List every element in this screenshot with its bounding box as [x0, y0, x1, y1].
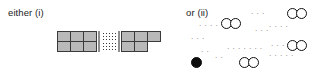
- grid-cell: [147, 31, 161, 42]
- ellipsis-dots: · · · · · · ·: [227, 45, 263, 52]
- open-circle: [296, 40, 307, 51]
- ellipsis-dots: · · · ·: [269, 23, 288, 30]
- figure-root: either (i): [0, 0, 326, 77]
- open-circle: [230, 18, 241, 29]
- ellipsis-dots: · · ·: [255, 27, 269, 34]
- ellipsis-dots: · · · · ·: [269, 52, 294, 59]
- option-i-caption: either (i): [8, 7, 44, 18]
- ellipsis-dots: · · · ·: [199, 22, 218, 29]
- grid-cell: [121, 41, 135, 52]
- band-edge-right: [118, 31, 120, 52]
- filled-circle: [191, 57, 202, 68]
- ellipsis-dots: · ·: [215, 54, 223, 61]
- ellipsis-dots: · · ·: [271, 42, 285, 49]
- continuation-dots: [98, 31, 120, 52]
- grid-cell: [57, 41, 71, 52]
- option-i-panel: either (i): [0, 0, 182, 77]
- grid-cell: [70, 41, 84, 52]
- ellipsis-dots: · · ·: [251, 10, 265, 17]
- open-circle: [296, 8, 307, 19]
- ellipsis-dots: · ·: [201, 48, 209, 55]
- open-circle: [248, 57, 259, 68]
- option-ii-caption: or (ii): [186, 7, 208, 18]
- band-edge-left: [98, 31, 100, 52]
- ellipsis-dots: · · ·: [191, 35, 205, 42]
- grid-cell: [134, 41, 148, 52]
- option-ii-panel: or (ii) · · · · · · · · · · · · · · · · …: [183, 0, 326, 77]
- grid-cell: [83, 41, 97, 52]
